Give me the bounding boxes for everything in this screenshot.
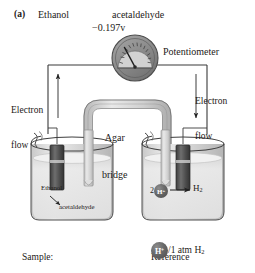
reaction-product-label: acetaldehyde: [112, 9, 164, 20]
left-glass-tube: [84, 130, 93, 186]
reference-hydrogen-ion-charge: +: [161, 247, 164, 253]
agar-bridge-label-line1: Agar: [102, 132, 128, 144]
electron-flow-left-line1: Electron: [11, 105, 43, 117]
reaction-reactant-label: Ethanol: [38, 9, 69, 20]
panel-label: (a): [14, 9, 25, 20]
electrochemical-cell-figure: (a) Ethanol acetaldehyde −0.197v Potenti…: [0, 0, 255, 273]
right-glass-tube: [161, 130, 170, 186]
hydrogen-gas-subscript: 2: [200, 187, 203, 193]
hydrogen-gas-label: H2: [193, 183, 203, 194]
ethanol-label: Ethanol: [41, 184, 62, 192]
agar-bridge-label: Agar bridge: [102, 108, 128, 206]
electron-flow-right-line2: flow: [195, 131, 227, 143]
potentiometer-label: Potentiometer: [163, 46, 219, 57]
hydrogen-ion-charge: +: [162, 188, 165, 193]
hydrogen-ion-group: 2H+: [150, 184, 168, 198]
right-electrode: [176, 145, 190, 190]
electron-flow-left-label: Electron flow: [11, 82, 43, 175]
sample-caption: Sample: acetaldehyde/ ethanol: [22, 228, 74, 273]
cell-potential-value: −0.197v: [92, 22, 125, 33]
electron-flow-left-line2: flow: [11, 140, 43, 152]
hydrogen-ion-bubble-icon: H+: [154, 184, 168, 198]
acetaldehyde-label: acetaldehyde: [59, 203, 94, 211]
reference-pressure-subscript: 2: [201, 248, 204, 255]
sample-caption-line1: Sample:: [22, 252, 74, 264]
potentiometer-gauge[interactable]: [112, 35, 158, 81]
electron-flow-right-label: Electron flow: [195, 73, 227, 166]
agar-bridge-label-line2: bridge: [102, 169, 128, 181]
reference-detail: H+/1 atm H2: [151, 242, 204, 259]
electron-flow-right-line1: Electron: [195, 96, 227, 108]
reference-pressure-text: /1 atm H: [168, 245, 201, 255]
reference-hydrogen-ion-bubble-icon: H+: [151, 242, 168, 259]
